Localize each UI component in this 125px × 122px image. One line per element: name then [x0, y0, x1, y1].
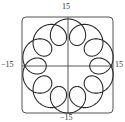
y-max-tick-label: 15 — [62, 3, 70, 11]
plot-area — [0, 0, 125, 122]
y-min-tick-label: −15 — [60, 114, 73, 122]
x-min-tick-label: −15 — [1, 61, 14, 69]
x-max-tick-label: 15 — [115, 61, 123, 69]
